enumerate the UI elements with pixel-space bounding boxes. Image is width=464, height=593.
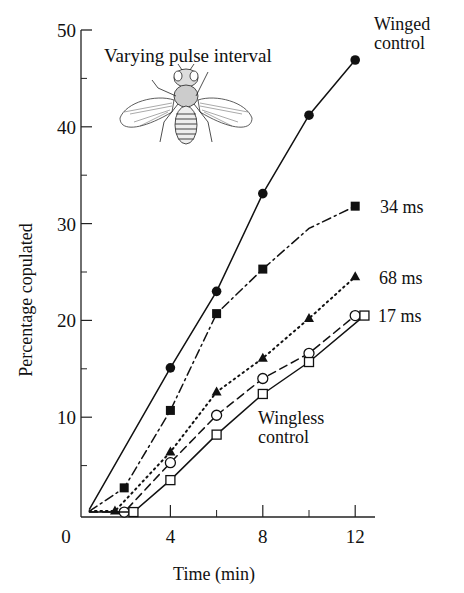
x-tick-label: 4 bbox=[166, 526, 176, 547]
y-axis-title: Percentage copulated bbox=[16, 223, 36, 376]
series-34-ms bbox=[90, 202, 360, 511]
x-tick-label: 8 bbox=[258, 526, 268, 547]
marker bbox=[212, 387, 222, 396]
marker bbox=[166, 406, 175, 415]
marker bbox=[305, 358, 314, 367]
marker bbox=[166, 363, 176, 373]
x-tick-label: 0 bbox=[61, 526, 71, 547]
series-label: 34 ms bbox=[380, 197, 424, 217]
marker bbox=[120, 483, 129, 492]
marker bbox=[129, 508, 138, 517]
marker bbox=[212, 287, 222, 297]
y-tick-label: 20 bbox=[57, 310, 76, 331]
axes: 102030405004812Time (min)Percentage copu… bbox=[16, 20, 375, 585]
marker bbox=[258, 373, 268, 383]
series-label: 68 ms bbox=[379, 268, 423, 288]
marker bbox=[110, 506, 120, 515]
series-label: Winged bbox=[374, 14, 430, 34]
marker bbox=[304, 313, 314, 322]
marker bbox=[166, 476, 175, 485]
marker bbox=[351, 202, 360, 211]
marker bbox=[350, 271, 360, 280]
x-axis-title: Time (min) bbox=[173, 564, 255, 585]
x-tick-label: 12 bbox=[346, 526, 365, 547]
marker bbox=[258, 189, 268, 199]
marker bbox=[304, 110, 314, 120]
y-tick-label: 50 bbox=[57, 20, 76, 41]
series-label: control bbox=[258, 427, 309, 447]
marker bbox=[360, 311, 369, 320]
series-label: Wingless bbox=[258, 408, 324, 428]
y-tick-label: 30 bbox=[57, 214, 76, 235]
marker bbox=[350, 55, 360, 65]
series-label: control bbox=[374, 33, 425, 53]
y-tick-label: 40 bbox=[57, 117, 76, 138]
fly-illustration bbox=[120, 64, 252, 144]
marker bbox=[258, 265, 267, 274]
labels-layer: Wingedcontrol34 ms68 ms17 msWinglesscont… bbox=[258, 14, 430, 447]
series-winged-control bbox=[90, 55, 361, 509]
marker bbox=[350, 311, 360, 321]
y-tick-label: 10 bbox=[57, 407, 76, 428]
marker bbox=[212, 309, 221, 318]
marker bbox=[258, 353, 268, 362]
series-label: 17 ms bbox=[378, 306, 422, 326]
marker bbox=[165, 458, 175, 468]
marker bbox=[304, 348, 314, 358]
chart: 102030405004812Time (min)Percentage copu… bbox=[0, 0, 464, 593]
marker bbox=[258, 389, 267, 398]
series-wingless-control bbox=[90, 311, 369, 517]
marker bbox=[212, 430, 221, 439]
marker bbox=[212, 410, 222, 420]
chart-title: Varying pulse interval bbox=[104, 45, 272, 66]
